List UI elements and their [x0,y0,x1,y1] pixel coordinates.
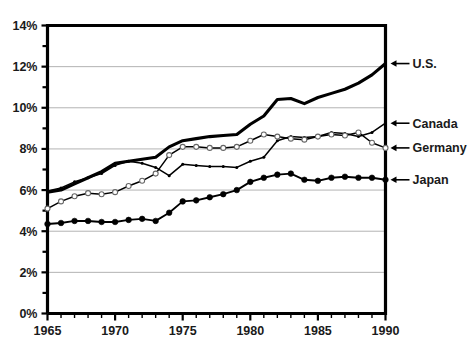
marker-japan [166,210,172,216]
marker-germany [113,190,118,195]
series-line-canada [48,123,386,191]
series-line-japan [48,174,386,224]
marker-japan [356,175,362,181]
y-tick-label: 14% [12,19,37,33]
marker-germany [329,132,334,137]
marker-germany [315,134,320,139]
marker-canada [114,164,117,167]
marker-japan [248,179,254,185]
y-tick-label: 10% [12,101,37,115]
marker-germany [153,171,158,176]
marker-germany [383,145,388,150]
marker-japan [220,191,226,197]
marker-germany [275,134,280,139]
x-tick-label: 1990 [372,324,400,338]
x-tick-label: 1980 [236,324,264,338]
marker-germany [72,194,77,199]
marker-germany [302,137,307,142]
series-label-japan: Japan [413,173,449,187]
marker-japan [315,178,321,184]
marker-canada [154,166,157,169]
marker-japan [180,199,186,205]
marker-canada [357,135,360,138]
marker-japan [261,175,267,181]
marker-japan [126,217,132,223]
marker-canada [276,139,279,142]
marker-germany [194,144,199,149]
marker-canada [46,190,49,193]
marker-japan [193,198,199,204]
marker-germany [356,130,361,135]
y-tick-label: 12% [12,60,37,74]
marker-japan [302,177,308,183]
marker-germany [59,199,64,204]
marker-japan [139,216,145,222]
marker-germany [45,206,50,211]
y-tick-label: 6% [19,184,37,198]
marker-japan [153,218,159,224]
marker-germany [167,153,172,158]
marker-canada [60,187,63,190]
x-tick-label: 1970 [101,324,129,338]
callout-arrow-germany [391,145,397,152]
chart-container: 0%2%4%6%8%10%12%14%196519701975198019851… [0,0,476,352]
x-tick-label: 1965 [34,324,62,338]
marker-germany [207,145,212,150]
marker-germany [221,145,226,150]
y-tick-label: 4% [19,225,37,239]
marker-japan [45,221,51,227]
marker-japan [85,218,91,224]
marker-japan [234,187,240,193]
x-tick-label: 1975 [169,324,197,338]
marker-canada [222,165,225,168]
series-line-us [48,64,386,193]
marker-japan [383,177,389,183]
series-label-canada: Canada [413,117,459,131]
marker-japan [342,174,348,180]
marker-canada [235,166,238,169]
marker-japan [275,172,281,178]
marker-japan [369,175,375,181]
y-tick-label: 0% [19,307,37,321]
marker-japan [329,175,335,181]
marker-canada [127,160,130,163]
marker-canada [262,156,265,159]
marker-germany [261,132,266,137]
marker-canada [73,180,76,183]
marker-japan [112,219,118,225]
series-line-germany [48,132,386,208]
marker-japan [72,218,78,224]
callout-arrow-us [391,60,397,67]
marker-canada [87,176,90,179]
marker-germany [234,144,239,149]
callout-arrow-japan [391,176,397,183]
marker-canada [141,162,144,165]
marker-germany [180,144,185,149]
plot-frame [48,26,386,314]
marker-canada [100,172,103,175]
marker-canada [370,131,373,134]
marker-germany [248,138,253,143]
y-tick-label: 8% [19,142,37,156]
marker-germany [140,178,145,183]
marker-canada [195,164,198,167]
marker-canada [181,163,184,166]
marker-canada [384,122,387,125]
marker-canada [208,165,211,168]
marker-germany [288,136,293,141]
series-label-germany: Germany [413,141,467,155]
line-chart: 0%2%4%6%8%10%12%14%196519701975198019851… [0,0,476,352]
marker-germany [126,183,131,188]
marker-germany [369,140,374,145]
callout-arrow-canada [391,120,397,127]
x-tick-label: 1985 [304,324,332,338]
marker-japan [288,171,294,177]
y-tick-label: 2% [19,266,37,280]
marker-japan [99,219,105,225]
marker-japan [207,194,213,200]
marker-japan [58,220,64,226]
series-label-us: U.S. [413,57,437,71]
marker-germany [342,133,347,138]
marker-canada [249,160,252,163]
marker-canada [168,174,171,177]
